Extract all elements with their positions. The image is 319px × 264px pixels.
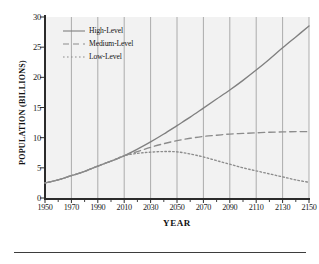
x-tick-label: 2010 — [117, 203, 132, 212]
y-tick-label: 30 — [1, 12, 41, 22]
legend-line-dashed-icon — [62, 39, 86, 49]
footer-divider — [14, 252, 306, 253]
x-tick-label: 2130 — [275, 203, 290, 212]
legend-label: High-Level — [86, 26, 123, 35]
x-tick-label: 2070 — [196, 203, 211, 212]
y-tick-label: 0 — [1, 193, 41, 203]
legend-line-dotted-icon — [62, 52, 86, 62]
x-tick-label: 1990 — [90, 203, 105, 212]
y-axis-title: POPULATION (BILLIONS) — [18, 33, 27, 193]
x-tick-label: 2030 — [143, 203, 158, 212]
x-tick-label: 2110 — [249, 203, 264, 212]
legend-item-low-level: Low-Level — [62, 50, 154, 63]
legend-label: Low-Level — [86, 52, 122, 61]
chart-legend: High-Level Medium-Level Low-Level — [62, 24, 154, 63]
legend-item-high-level: High-Level — [62, 24, 154, 37]
x-tick-label: 1970 — [64, 203, 79, 212]
x-tick-label: 2050 — [169, 203, 184, 212]
population-projection-figure: 051015202530 195019701990201020302050207… — [0, 0, 319, 264]
legend-item-medium-level: Medium-Level — [62, 37, 154, 50]
x-axis-title: YEAR — [45, 218, 309, 228]
legend-line-solid-icon — [62, 26, 86, 36]
x-tick-label: 1950 — [37, 203, 52, 212]
x-tick-label: 2150 — [301, 203, 316, 212]
x-tick-label: 2090 — [222, 203, 237, 212]
legend-label: Medium-Level — [86, 39, 133, 48]
